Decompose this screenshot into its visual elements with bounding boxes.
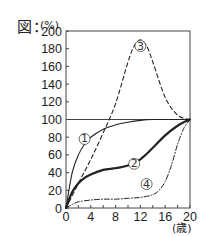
x-tick-label: 12: [133, 210, 147, 224]
series-group: [66, 40, 190, 208]
y-tick-label: 140: [41, 78, 62, 92]
y-tick-label: 200: [41, 25, 62, 39]
x-tick-label: 8: [112, 210, 119, 224]
y-tick-label: 100: [41, 113, 62, 127]
y-tick-label: 180: [41, 42, 62, 56]
y-tick-label: 80: [48, 131, 62, 145]
y-tick-label: 0: [55, 202, 62, 216]
x-axis-unit: (歳): [172, 222, 192, 235]
y-tick-label: 20: [48, 184, 62, 198]
y-tick-label: 160: [41, 60, 62, 74]
y-axis-ticks: 020406080100120140160180200: [41, 25, 69, 216]
x-tick-label: 16: [158, 210, 172, 224]
series-label-2: 2: [131, 157, 138, 170]
y-tick-label: 120: [41, 95, 62, 109]
series-label-3: 3: [137, 40, 144, 53]
series-label-4: 4: [143, 178, 150, 191]
y-tick-label: 40: [48, 166, 62, 180]
series-label-1: 1: [81, 132, 88, 145]
growth-curve-chart: (%) 020406080100120140160180200 04812162…: [0, 0, 204, 237]
x-tick-label: 0: [63, 210, 70, 224]
x-tick-label: 4: [87, 210, 94, 224]
series-line-3: [66, 40, 190, 208]
y-tick-label: 60: [48, 148, 62, 162]
